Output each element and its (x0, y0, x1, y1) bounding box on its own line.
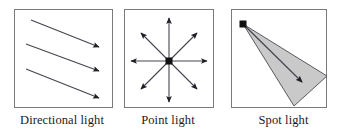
panel-point-light: Point light (118, 0, 218, 138)
panel-directional-light: Directional light (0, 0, 124, 138)
spot-light-caption: Spot light (224, 112, 343, 128)
directional-light-diagram (0, 0, 124, 112)
point-light-diagram (118, 0, 218, 112)
point-light-caption: Point light (118, 112, 218, 128)
directional-light-caption: Directional light (0, 112, 124, 128)
light-types-figure: Directional light Point light (0, 0, 343, 138)
directional-light-box (15, 10, 113, 108)
point-light-source-marker (166, 58, 173, 65)
spot-light-diagram (224, 0, 343, 112)
spot-light-source-marker (240, 21, 247, 28)
panel-spot-light: Spot light (224, 0, 343, 138)
